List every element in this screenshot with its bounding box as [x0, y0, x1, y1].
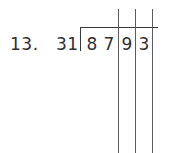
column-separator-rule	[152, 9, 153, 153]
column-separator-rule	[118, 9, 119, 153]
dividend-digit: 8	[85, 36, 99, 53]
dividend-digit: 9	[120, 36, 134, 53]
problem-number: 13.	[10, 36, 39, 53]
dividend-digit: 7	[102, 36, 116, 53]
column-separator-rule	[135, 9, 136, 153]
divisor-value: 31	[56, 36, 79, 53]
long-division-worksheet-problem: 13. 31 8 7 9 3	[0, 0, 169, 153]
dividend-digit: 3	[137, 36, 151, 53]
division-bracket-vinculum	[80, 27, 158, 28]
division-bracket-left-stroke	[80, 27, 81, 51]
